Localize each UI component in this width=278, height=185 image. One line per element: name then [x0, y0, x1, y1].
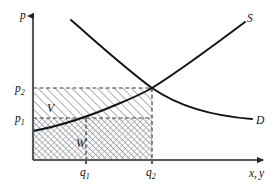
x-tick-q1-sub: 1: [86, 172, 90, 181]
w-region-fill: [33, 118, 152, 160]
x-tick-label-q2: q2: [146, 166, 156, 181]
y-tick-label-p2: p2: [14, 82, 25, 97]
diagram-canvas: p x,y p2 p1 q1 q2 S D: [0, 0, 278, 185]
x-tick-q2-sub: 2: [152, 172, 156, 181]
y-tick-p1-sub: 1: [21, 118, 25, 127]
w-region-label: W: [76, 137, 87, 149]
x-axis-label-y: y: [258, 167, 265, 180]
demand-curve-label: D: [255, 114, 265, 126]
supply-demand-figure: p x,y p2 p1 q1 q2 S D: [0, 0, 278, 185]
x-axis-label-sep: ,: [254, 167, 257, 180]
x-tick-label-q1: q1: [80, 166, 90, 181]
y-axis-label: p: [19, 9, 26, 22]
shaded-regions: [33, 88, 152, 160]
supply-curve-label: S: [247, 12, 253, 24]
y-tick-label-p1: p1: [14, 112, 25, 127]
y-tick-p2-sub: 2: [21, 88, 25, 97]
x-axis-label: x,y: [248, 167, 265, 180]
